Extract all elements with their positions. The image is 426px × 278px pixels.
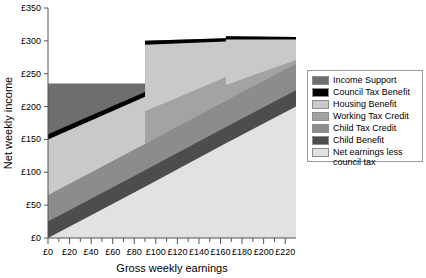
y-axis-ticks: £0£50£100£150£200£250£300£350 [21, 3, 48, 243]
y-tick-label: £200 [21, 102, 41, 112]
x-tick-label: £220 [275, 247, 295, 257]
legend-swatch [312, 112, 329, 121]
chart-legend: Income SupportCouncil Tax BenefitHousing… [307, 70, 423, 162]
x-tick-label: £140 [189, 247, 209, 257]
y-tick-label: £300 [21, 36, 41, 46]
legend-swatch [312, 76, 329, 85]
legend-label: Working Tax Credit [333, 111, 409, 121]
legend-label: Income Support [333, 75, 397, 85]
x-tick-label: £160 [211, 247, 231, 257]
chart-screenshot: £0£50£100£150£200£250£300£350 £0£20£40£6… [0, 0, 426, 278]
x-tick-label: £200 [254, 247, 274, 257]
legend-item[interactable]: Net earnings less council tax [312, 147, 419, 168]
legend-item[interactable]: Child Benefit [312, 135, 419, 146]
legend-label: Net earnings less council tax [333, 147, 403, 167]
x-tick-label: £80 [127, 247, 142, 257]
x-axis-ticks: £0£20£40£60£80£100£120£140£160£180£200£2… [43, 238, 295, 257]
x-tick-label: £20 [62, 247, 77, 257]
chart-area-series-group [48, 36, 296, 238]
legend-item[interactable]: Working Tax Credit [312, 111, 419, 122]
legend-item[interactable]: Income Support [312, 75, 419, 86]
legend-swatch [312, 124, 329, 133]
x-tick-label: £60 [105, 247, 120, 257]
legend-item[interactable]: Child Tax Credit [312, 123, 419, 134]
legend-swatch [312, 88, 329, 97]
x-tick-label: £180 [232, 247, 252, 257]
legend-item[interactable]: Housing Benefit [312, 99, 419, 110]
legend-item[interactable]: Council Tax Benefit [312, 87, 419, 98]
y-tick-label: £100 [21, 167, 41, 177]
x-tick-label: £100 [146, 247, 166, 257]
legend-swatch [312, 148, 329, 157]
legend-label: Council Tax Benefit [333, 87, 410, 97]
legend-swatch [312, 100, 329, 109]
y-tick-label: £250 [21, 69, 41, 79]
x-axis-title: Gross weekly earnings [116, 262, 228, 274]
y-tick-label: £350 [21, 3, 41, 13]
y-tick-label: £0 [31, 233, 41, 243]
y-tick-label: £50 [26, 200, 41, 210]
legend-label: Child Tax Credit [333, 123, 396, 133]
legend-label: Child Benefit [333, 135, 384, 145]
x-tick-label: £40 [84, 247, 99, 257]
y-tick-label: £150 [21, 134, 41, 144]
x-tick-label: £120 [167, 247, 187, 257]
legend-swatch [312, 136, 329, 145]
x-tick-label: £0 [43, 247, 53, 257]
legend-label: Housing Benefit [333, 99, 397, 109]
y-axis-title: Net weekly income [2, 77, 14, 169]
